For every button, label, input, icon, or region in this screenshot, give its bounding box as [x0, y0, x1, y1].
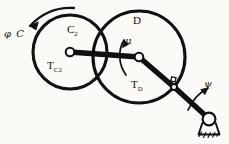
- label-torque-d-subscript: D: [138, 85, 143, 92]
- label-torque-d-base: T: [131, 78, 138, 90]
- diagram-canvas: [0, 0, 229, 144]
- label-input-rotation: φ C: [4, 29, 25, 39]
- pivot-d-center: [135, 53, 144, 62]
- label-angle-psi: ψ: [204, 79, 212, 89]
- label-disc-c2: C2: [67, 24, 78, 38]
- label-torque-c2: TC2: [47, 60, 62, 74]
- label-torque-d: TD: [131, 79, 143, 93]
- label-disc-d: D: [133, 15, 141, 26]
- label-disc-c2-subscript: 2: [74, 30, 78, 37]
- ground-pivot-bearing: [203, 113, 216, 126]
- pin-joint-rim: [171, 84, 177, 90]
- mechanism-diagram: φ C C2 TC2 D μ TD ψ: [0, 0, 229, 144]
- label-torque-c2-subscript: C2: [54, 66, 62, 73]
- pivot-c2-center: [66, 48, 75, 57]
- label-torque-c2-base: T: [47, 59, 54, 71]
- label-angle-mu: μ: [125, 36, 132, 46]
